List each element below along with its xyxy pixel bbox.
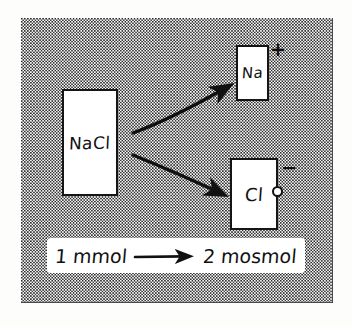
box-cl-label: Cl	[244, 183, 264, 204]
figure-canvas: NaCl Na + Cl − 1 mmol 2 mosmol	[0, 0, 352, 327]
caption-band: 1 mmol 2 mosmol	[47, 238, 305, 273]
box-nacl-label: NaCl	[69, 132, 111, 153]
caption-right-value: 2 mosmol	[202, 245, 298, 267]
charge-plus-sign: +	[270, 40, 286, 59]
caption-arrow-icon	[133, 248, 197, 264]
charge-minus-sign: −	[281, 158, 297, 177]
box-nacl: NaCl	[62, 89, 118, 196]
box-na-label: Na	[241, 64, 264, 83]
cl-edge-node-icon	[272, 186, 283, 197]
box-cl: Cl	[230, 158, 278, 230]
box-na: Na	[236, 45, 269, 101]
caption-left-value: 1 mmol	[54, 245, 128, 267]
